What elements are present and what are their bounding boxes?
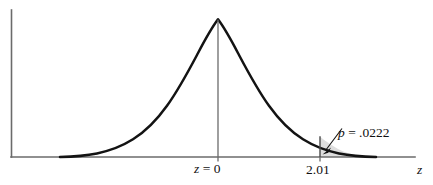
normal-curve-figure: z = 0 2.01 p = .0222 z bbox=[0, 0, 433, 185]
label-p-value-annotation: p = .0222 bbox=[338, 126, 390, 140]
distribution-chart-canvas bbox=[0, 0, 433, 185]
label-critical-value: 2.01 bbox=[306, 163, 330, 177]
label-mean-z-rest: = 0 bbox=[199, 161, 220, 176]
label-mean-z-zero: z = 0 bbox=[194, 162, 220, 176]
label-x-axis-z: z bbox=[417, 163, 422, 177]
label-p-rest: = .0222 bbox=[345, 125, 390, 140]
label-p-italic: p bbox=[338, 125, 345, 140]
